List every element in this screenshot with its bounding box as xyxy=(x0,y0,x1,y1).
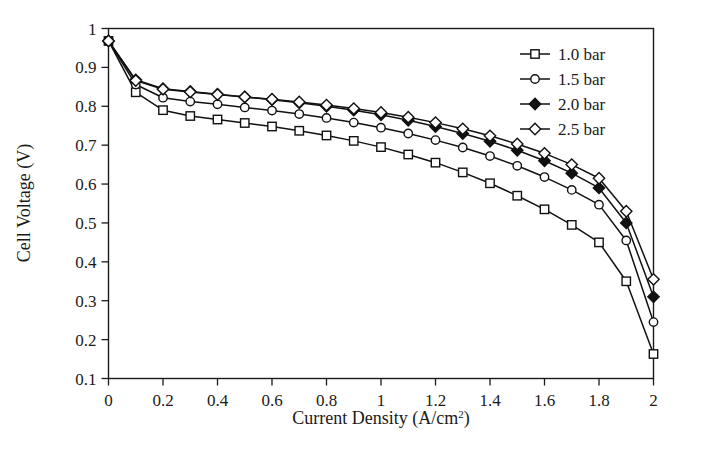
data-point-open-circle xyxy=(540,173,548,181)
data-point-open-square xyxy=(268,122,276,130)
data-point-open-square xyxy=(595,238,603,246)
data-point-open-square xyxy=(540,205,548,213)
data-point-open-circle xyxy=(295,110,303,118)
data-point-open-circle xyxy=(241,103,249,111)
y-tick-label: 0.4 xyxy=(75,253,97,272)
y-tick-label: 0.7 xyxy=(75,136,97,155)
data-point-open-square xyxy=(213,115,221,123)
data-point-open-square xyxy=(377,143,385,151)
x-tick-label: 0.6 xyxy=(261,391,282,410)
data-point-open-circle xyxy=(459,143,467,151)
x-tick-label: 1 xyxy=(377,391,386,410)
x-tick-label: 0.8 xyxy=(316,391,337,410)
data-point-open-circle xyxy=(322,114,330,122)
y-tick-label: 0.2 xyxy=(75,331,96,350)
y-axis-title: Cell Voltage (V) xyxy=(14,144,35,262)
y-tick-label: 0.6 xyxy=(75,175,96,194)
data-point-open-circle xyxy=(568,186,576,194)
data-point-open-square xyxy=(531,50,539,58)
data-point-open-square xyxy=(295,127,303,135)
data-point-open-square xyxy=(622,277,630,285)
data-point-open-square xyxy=(350,137,358,145)
y-tick-label: 0.1 xyxy=(75,370,96,389)
data-point-open-circle xyxy=(213,100,221,108)
data-point-open-circle xyxy=(622,236,630,244)
y-tick-label: 1 xyxy=(88,20,97,39)
x-tick-label: 1.6 xyxy=(534,391,555,410)
data-point-open-square xyxy=(404,150,412,158)
data-point-open-circle xyxy=(486,152,494,160)
data-point-open-square xyxy=(241,119,249,127)
data-point-open-square xyxy=(459,168,467,176)
data-point-open-square xyxy=(649,350,657,358)
data-point-open-square xyxy=(159,106,167,114)
data-point-open-circle xyxy=(404,129,412,137)
data-point-open-circle xyxy=(268,106,276,114)
data-point-open-square xyxy=(186,112,194,120)
x-axis-title: Current Density (A/cm2) xyxy=(292,408,469,429)
y-tick-label: 0.3 xyxy=(75,292,96,311)
legend-label: 2.0 bar xyxy=(558,95,606,114)
data-point-open-circle xyxy=(649,318,657,326)
legend-label: 1.5 bar xyxy=(558,70,606,89)
y-tick-label: 0.5 xyxy=(75,214,96,233)
data-point-open-circle xyxy=(513,162,521,170)
x-tick-label: 0.2 xyxy=(152,391,173,410)
data-point-open-square xyxy=(431,158,439,166)
chart-background xyxy=(0,0,704,454)
data-point-open-circle xyxy=(531,75,539,83)
data-point-open-circle xyxy=(350,118,358,126)
x-tick-label: 0.4 xyxy=(207,391,229,410)
data-point-open-square xyxy=(513,192,521,200)
x-tick-label: 0 xyxy=(104,391,113,410)
data-point-open-circle xyxy=(186,97,194,105)
y-tick-label: 0.8 xyxy=(75,97,96,116)
data-point-open-square xyxy=(568,221,576,229)
data-point-open-circle xyxy=(595,200,603,208)
legend-label: 1.0 bar xyxy=(558,45,606,64)
y-tick-label: 0.9 xyxy=(75,58,96,77)
chart-figure: 00.20.40.60.811.21.41.61.82 0.10.20.30.4… xyxy=(0,0,704,454)
data-point-open-circle xyxy=(431,136,439,144)
x-tick-label: 1.2 xyxy=(425,391,446,410)
data-point-open-square xyxy=(486,179,494,187)
legend-label: 2.5 bar xyxy=(558,120,606,139)
data-point-open-circle xyxy=(377,123,385,131)
line-chart: 00.20.40.60.811.21.41.61.82 0.10.20.30.4… xyxy=(0,0,704,454)
x-tick-label: 2 xyxy=(649,391,658,410)
x-tick-label: 1.4 xyxy=(479,391,501,410)
x-tick-label: 1.8 xyxy=(588,391,609,410)
data-point-open-square xyxy=(322,131,330,139)
